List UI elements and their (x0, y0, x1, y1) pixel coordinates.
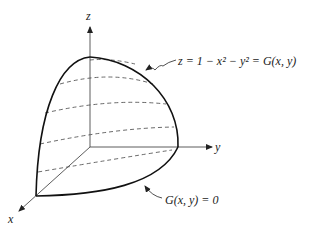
x-axis (19, 147, 90, 211)
y-axis-label: y (215, 141, 220, 153)
surface-pointer (146, 60, 176, 70)
boundary-pointer (145, 186, 162, 198)
surface-right-edge (90, 57, 178, 147)
boundary-equation-label: G(x, y) = 0 (165, 194, 218, 206)
surface-equation-label: z = 1 − x² − y² = G(x, y) (178, 55, 296, 67)
surface-left-edge (36, 57, 90, 196)
z-axis-label: z (86, 10, 91, 22)
level-curves (38, 60, 174, 173)
surface-outline (36, 57, 178, 196)
boundary-curve (36, 147, 178, 196)
diagram-canvas (0, 0, 311, 233)
x-axis-label: x (8, 213, 13, 225)
